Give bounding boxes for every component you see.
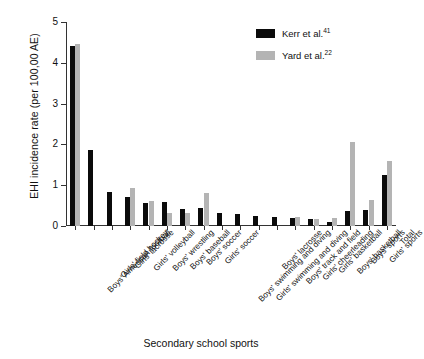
bar — [332, 218, 337, 226]
y-axis-tick-label: 5 — [52, 15, 58, 28]
y-axis-tick: 4 — [61, 63, 66, 64]
bar — [70, 46, 75, 226]
bar-group — [198, 22, 209, 226]
legend-reference-superscript: 22 — [325, 49, 332, 56]
bar — [382, 175, 387, 226]
bar-group — [217, 22, 228, 226]
bar — [143, 203, 148, 226]
bar — [253, 216, 258, 226]
y-axis-tick: 5 — [61, 22, 66, 23]
y-axis-tick-label: 4 — [52, 56, 58, 69]
bar — [217, 213, 222, 226]
bar-group — [125, 22, 136, 226]
bar — [350, 142, 355, 226]
bar — [198, 208, 203, 226]
x-axis-tick-labels: Boys' American footballGirls' field hock… — [66, 228, 402, 332]
bar — [88, 150, 93, 226]
bar-group — [107, 22, 118, 226]
bar — [290, 218, 295, 226]
legend-label: Yard et al.22 — [282, 50, 332, 61]
bar-group — [235, 22, 246, 226]
y-axis-tick: 0 — [61, 226, 66, 227]
y-axis-tick: 2 — [61, 144, 66, 145]
bar — [180, 209, 185, 226]
legend-swatch — [256, 51, 275, 60]
legend-item: Yard et al.22 — [256, 50, 388, 61]
bar — [295, 217, 300, 226]
legend-item: Kerr et al.41 — [256, 28, 388, 39]
bar — [314, 219, 319, 226]
bar-group — [70, 22, 81, 226]
bar — [75, 44, 80, 226]
bar — [387, 161, 392, 226]
bar — [272, 217, 277, 226]
bar — [149, 201, 154, 226]
y-axis-tick-label: 1 — [52, 178, 58, 191]
bar — [125, 197, 130, 226]
bar-group — [88, 22, 99, 226]
y-axis-line — [66, 22, 67, 226]
legend: Kerr et al.41Yard et al.22 — [256, 28, 388, 72]
bar — [345, 211, 350, 227]
bar — [130, 188, 135, 226]
bar — [369, 200, 374, 226]
bar — [107, 192, 112, 226]
bar — [162, 202, 167, 226]
y-axis-tick: 1 — [61, 185, 66, 186]
legend-reference-superscript: 41 — [323, 27, 330, 34]
legend-swatch — [256, 29, 275, 38]
legend-label: Kerr et al.41 — [282, 28, 331, 39]
y-axis-tick-label: 2 — [52, 137, 58, 150]
bar — [327, 222, 332, 226]
bar — [185, 213, 190, 226]
bar — [167, 213, 172, 226]
y-axis-tick: 3 — [61, 104, 66, 105]
bar-group — [162, 22, 173, 226]
y-axis-tick-label: 0 — [52, 219, 58, 232]
bar — [308, 219, 313, 226]
y-axis-tick-label: 3 — [52, 97, 58, 110]
bar-group — [143, 22, 154, 226]
bar-group — [180, 22, 191, 226]
y-axis-title: EHI incidence rate (per 100,00 AE) — [28, 6, 40, 226]
bar — [363, 210, 368, 226]
bar — [204, 193, 209, 226]
bar — [235, 214, 240, 226]
x-axis-title: Secondary school sports — [0, 337, 402, 349]
